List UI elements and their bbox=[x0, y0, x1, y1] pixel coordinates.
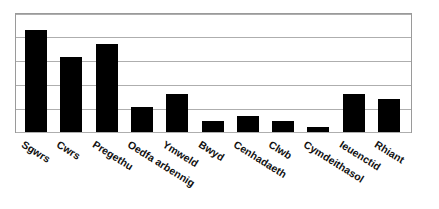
x-label-sgwrs: Sgwrs bbox=[20, 138, 53, 165]
bar-rhiant bbox=[378, 99, 400, 132]
bar-oedfa-arbennig bbox=[131, 107, 153, 132]
bar-bwyd bbox=[202, 121, 224, 132]
bar-cenhadaeth bbox=[237, 116, 259, 132]
bar-cwrs bbox=[60, 57, 82, 132]
x-label-cwrs: Cwrs bbox=[55, 138, 83, 162]
bar-ieuenctid bbox=[343, 94, 365, 132]
bars-group bbox=[16, 14, 411, 132]
bar-sgwrs bbox=[25, 30, 47, 132]
plot-area bbox=[15, 13, 412, 133]
x-axis-labels: Sgwrs Cwrs Pregethu Oedfa arbennig Ymwel… bbox=[15, 133, 412, 209]
bar-cymdeithasol bbox=[307, 127, 329, 132]
x-label-cymdeithasol: Cymdeithasol bbox=[302, 138, 367, 185]
bar-pregethu bbox=[96, 44, 118, 133]
bar-ymweld bbox=[166, 94, 188, 132]
bar-chart-figure: Sgwrs Cwrs Pregethu Oedfa arbennig Ymwel… bbox=[0, 0, 439, 209]
bar-clwb bbox=[272, 121, 294, 132]
x-label-bwyd: Bwyd bbox=[196, 138, 226, 163]
